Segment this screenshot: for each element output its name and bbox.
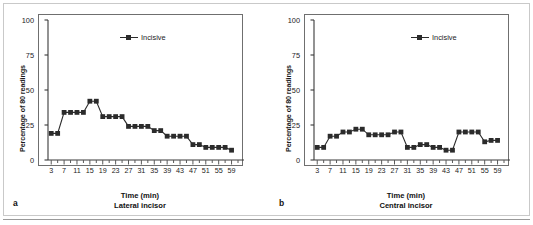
y-tick-label: 0: [12, 156, 34, 165]
y-tick-label: 100: [278, 16, 300, 25]
y-tick-label: 75: [278, 51, 300, 60]
y-tick-label: 0: [278, 156, 300, 165]
panel-subtitle-a: Lateral incisor: [80, 201, 200, 210]
x-axis-title-a: Time (min): [80, 191, 200, 200]
panel-subtitle-b: Central incisor: [346, 201, 466, 210]
y-tick-label: 100: [12, 16, 34, 25]
panel-letter-b: b: [279, 198, 284, 208]
y-tick-label: 25: [12, 121, 34, 130]
x-tick-label: 59: [488, 166, 508, 175]
panel-central-incisor: Percentage of 80 readings Incisive Time …: [266, 0, 532, 225]
x-axis-title-b: Time (min): [346, 191, 466, 200]
panel-letter-a: a: [13, 198, 18, 208]
y-tick-label: 50: [278, 86, 300, 95]
y-tick-label: 50: [12, 86, 34, 95]
figure-container: Percentage of 80 readings Incisive Time …: [0, 0, 533, 225]
x-tick-label: 59: [222, 166, 242, 175]
y-tick-label: 25: [278, 121, 300, 130]
panel-lateral-incisor: Percentage of 80 readings Incisive Time …: [0, 0, 266, 225]
y-tick-label: 75: [12, 51, 34, 60]
